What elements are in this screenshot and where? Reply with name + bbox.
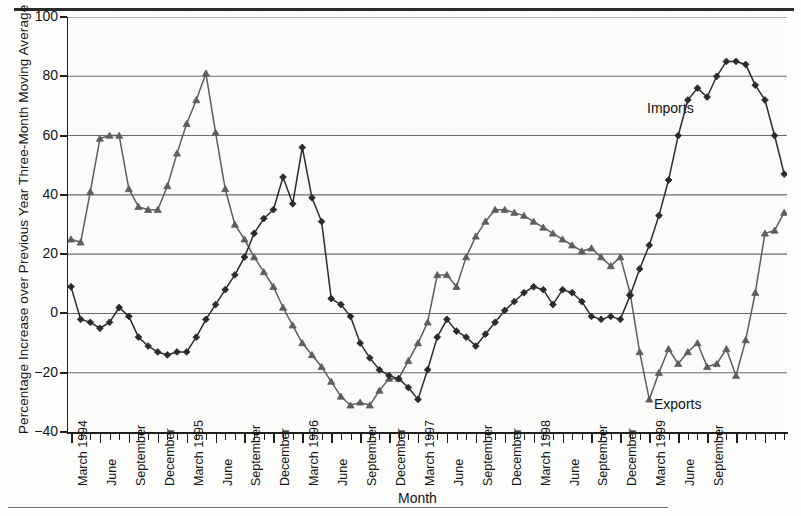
x-tick-mark [726, 434, 727, 440]
imports-marker [530, 283, 537, 290]
exports-marker [540, 224, 547, 230]
x-tick-label: June [105, 459, 119, 486]
exports-marker [125, 186, 132, 192]
imports-marker [280, 174, 287, 181]
imports-marker [607, 313, 614, 320]
x-tick-label: December [163, 428, 177, 486]
top-rule [14, 8, 794, 11]
x-tick-mark [784, 434, 785, 440]
x-tick-label: September [365, 425, 379, 486]
y-tick-label: −20 [14, 365, 58, 379]
x-tick-mark [119, 434, 120, 440]
x-tick-mark [264, 434, 265, 440]
exports-marker [742, 337, 749, 343]
x-tick-mark [688, 434, 689, 440]
exports-marker [289, 322, 296, 328]
exports-marker [694, 340, 701, 346]
imports-marker [656, 212, 663, 219]
x-tick-mark [765, 434, 767, 443]
exports-marker [222, 186, 229, 192]
x-tick-mark [235, 434, 236, 440]
x-tick-mark [408, 434, 409, 440]
exports-marker [665, 346, 672, 352]
x-tick-label: March 1995 [192, 420, 206, 486]
imports-marker [164, 352, 171, 359]
x-tick-mark [322, 434, 323, 440]
y-tick-label: 100 [14, 9, 58, 23]
y-tick-mark [60, 16, 67, 18]
x-tick-label: December [394, 428, 408, 486]
x-tick-mark [707, 434, 709, 443]
x-tick-mark [129, 434, 131, 443]
y-tick-label: 60 [14, 128, 58, 142]
x-tick-label: June [452, 459, 466, 486]
exports-marker [231, 221, 238, 227]
x-tick-mark [775, 434, 776, 440]
x-tick-mark [158, 434, 160, 443]
imports-marker [781, 171, 787, 178]
exports-marker [424, 319, 431, 325]
x-tick-mark [244, 434, 246, 443]
x-axis-title: Month [398, 490, 437, 506]
x-tick-mark [437, 434, 438, 440]
y-tick-label: 0 [14, 305, 58, 319]
imports-marker [617, 316, 624, 323]
x-tick-label: June [336, 459, 350, 486]
imports-marker [87, 319, 94, 326]
imports-marker [77, 316, 84, 323]
y-tick-mark [60, 312, 67, 314]
x-tick-mark [736, 434, 738, 443]
y-tick-mark [60, 372, 67, 374]
x-tick-mark [389, 434, 391, 443]
imports-marker [424, 366, 431, 373]
y-tick-mark [60, 75, 67, 77]
exports-marker [636, 349, 643, 355]
x-tick-label: September [712, 425, 726, 486]
series-canvas [68, 17, 787, 432]
x-tick-mark [379, 434, 380, 440]
x-tick-mark [293, 434, 294, 440]
imports-marker [328, 295, 335, 302]
x-tick-mark [331, 434, 333, 443]
x-tick-mark [649, 434, 651, 443]
x-tick-mark [563, 434, 565, 443]
imports-marker [241, 254, 248, 261]
x-tick-mark [447, 434, 449, 443]
y-tick-mark [60, 253, 67, 255]
imports-marker [154, 349, 161, 356]
x-tick-mark [177, 434, 178, 440]
bottom-rule [8, 507, 668, 508]
exports-marker [405, 357, 412, 363]
x-tick-mark [620, 434, 622, 443]
imports-marker [646, 242, 653, 249]
exports-marker [68, 236, 75, 242]
y-tick-label: −40 [14, 424, 58, 438]
exports-marker [414, 340, 421, 346]
y-tick-mark [60, 194, 67, 196]
x-tick-label: March 1999 [654, 420, 668, 486]
exports-marker [646, 396, 653, 402]
x-tick-label: March 1997 [423, 420, 437, 486]
imports-marker [318, 218, 325, 225]
y-tick-mark [60, 431, 67, 433]
x-tick-mark [582, 434, 583, 440]
imports-series-label: Imports [647, 100, 694, 116]
y-tick-mark [60, 135, 67, 137]
x-tick-label: December [510, 428, 524, 486]
plot-area [68, 17, 787, 432]
imports-marker [675, 132, 682, 139]
x-tick-label: September [249, 425, 263, 486]
exports-marker [569, 242, 576, 248]
exports-marker [279, 304, 286, 310]
x-tick-label: June [568, 459, 582, 486]
exports-marker [781, 209, 787, 215]
x-tick-mark [418, 434, 420, 443]
y-tick-label: 80 [14, 68, 58, 82]
x-tick-mark [273, 434, 275, 443]
exports-marker [164, 183, 171, 189]
x-tick-label: June [683, 459, 697, 486]
x-tick-mark [591, 434, 593, 443]
imports-marker [434, 334, 441, 341]
imports-marker [299, 144, 306, 151]
x-tick-mark [100, 434, 102, 443]
